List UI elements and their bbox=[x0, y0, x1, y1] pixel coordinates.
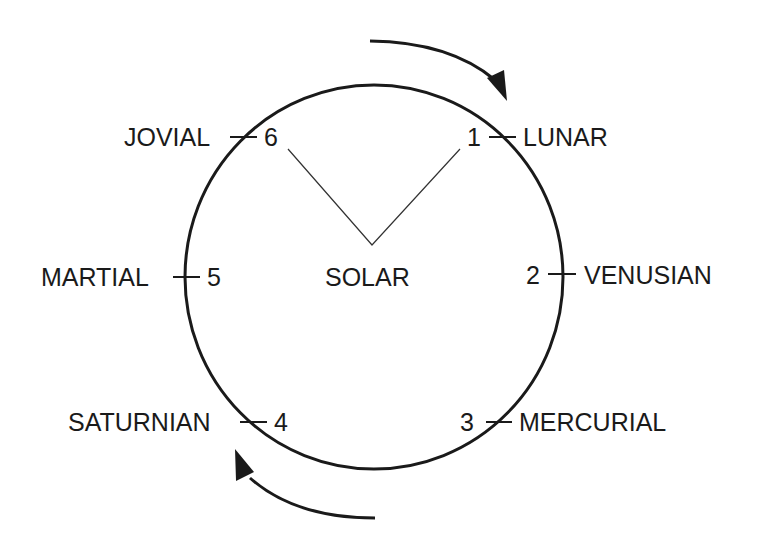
node-3-number: 3 bbox=[460, 408, 474, 436]
node-5-name: MARTIAL bbox=[41, 263, 149, 291]
node-1-name: LUNAR bbox=[523, 123, 608, 151]
node-1-number: 1 bbox=[467, 123, 481, 151]
node-4-number: 4 bbox=[274, 408, 288, 436]
node-5-number: 5 bbox=[207, 263, 221, 291]
clockwise-arrow-top-icon bbox=[370, 41, 507, 101]
clockwise-arrow-bottom-icon bbox=[235, 449, 375, 518]
node-6-number: 6 bbox=[264, 123, 278, 151]
node-2-name: VENUSIAN bbox=[584, 261, 712, 289]
node-2-number: 2 bbox=[526, 261, 540, 289]
solar-connector-lines bbox=[288, 149, 460, 245]
center-label-solar: SOLAR bbox=[325, 263, 410, 291]
node-3-name: MERCURIAL bbox=[519, 408, 666, 436]
node-6-name: JOVIAL bbox=[124, 123, 210, 151]
node-4-name: SATURNIAN bbox=[68, 408, 211, 436]
planetary-cycle-diagram: 1 LUNAR 2 VENUSIAN 3 MERCURIAL SATURNIAN… bbox=[0, 0, 762, 551]
